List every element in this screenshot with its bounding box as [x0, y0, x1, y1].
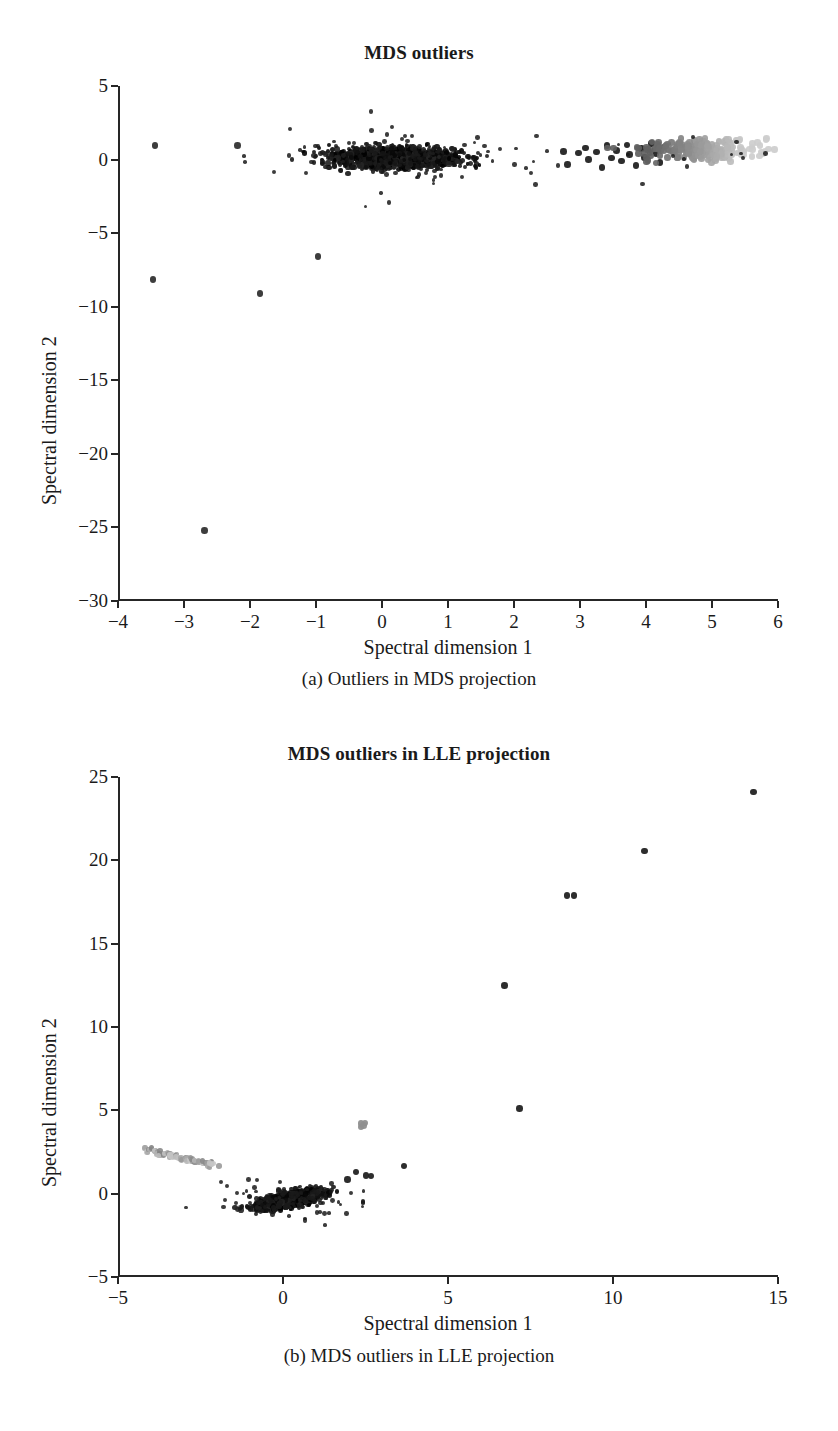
x-tick-label: 6 — [773, 611, 783, 633]
cluster-point — [238, 1205, 243, 1210]
cluster-point — [439, 173, 444, 178]
cluster-point — [349, 1191, 353, 1195]
cluster-point — [322, 1187, 326, 1191]
cluster-point — [357, 164, 362, 169]
cluster-point — [610, 145, 617, 152]
cluster-point — [475, 135, 479, 139]
cluster-point — [303, 1218, 307, 1222]
cluster-point — [387, 200, 392, 205]
x-tick — [447, 1277, 449, 1284]
x-tick — [777, 601, 779, 608]
cluster-point — [725, 136, 732, 143]
cluster-point — [379, 191, 382, 194]
cluster-point — [741, 156, 745, 160]
outlier-point — [633, 162, 640, 169]
cluster-point — [332, 140, 336, 144]
cluster-point — [443, 146, 446, 149]
outlier-point — [201, 527, 208, 534]
cluster-point — [225, 1184, 229, 1188]
cluster-point — [320, 159, 325, 164]
cluster-point — [390, 125, 394, 129]
x-tick — [381, 601, 383, 608]
y-tick — [111, 1193, 118, 1195]
cluster-point — [697, 148, 704, 155]
cluster-point — [219, 1180, 224, 1185]
cluster-point — [446, 161, 452, 167]
cluster-point — [737, 144, 744, 151]
cluster-point — [685, 143, 692, 150]
cluster-point — [318, 1210, 322, 1214]
cluster-point — [524, 166, 528, 170]
cluster-point — [290, 157, 295, 162]
cluster-point — [724, 144, 731, 151]
plot-a-points-layer — [120, 86, 778, 599]
cluster-point — [763, 136, 770, 143]
outlier-point — [344, 1176, 351, 1183]
cluster-point — [341, 153, 346, 158]
x-tick-label: 15 — [769, 1287, 788, 1309]
cluster-point — [320, 1196, 324, 1200]
outlier-point — [575, 150, 582, 157]
x-tick — [447, 601, 449, 608]
panel-b-title: MDS outliers in LLE projection — [0, 743, 838, 765]
outlier-point — [358, 1124, 365, 1131]
cluster-point — [303, 145, 307, 149]
y-tick — [111, 526, 118, 528]
x-tick — [282, 1277, 284, 1284]
cluster-point — [223, 1198, 227, 1202]
cluster-point — [685, 164, 689, 168]
x-tick-label: −3 — [174, 611, 194, 633]
outlier-point — [353, 1169, 360, 1176]
cluster-point — [364, 205, 368, 209]
outlier-point — [315, 253, 322, 260]
cluster-point — [420, 163, 425, 168]
cluster-point — [216, 1163, 222, 1169]
cluster-point — [534, 134, 538, 138]
cluster-point — [545, 149, 549, 153]
y-tick — [111, 1026, 118, 1028]
cluster-point — [305, 1188, 309, 1192]
panel-a-title: MDS outliers — [0, 42, 838, 64]
cluster-point — [771, 146, 778, 153]
x-tick-label: −4 — [108, 611, 128, 633]
plot-b-axes — [118, 777, 778, 1277]
cluster-point — [245, 1189, 249, 1193]
cluster-point — [272, 170, 276, 174]
panel-a-ylabel: Spectral dimension 2 — [38, 336, 61, 505]
cluster-point — [447, 156, 451, 160]
cluster-point — [242, 154, 246, 158]
panel-b: MDS outliers in LLE projection 252015105… — [0, 700, 838, 1431]
cluster-point — [254, 1190, 258, 1194]
x-tick-label: 2 — [509, 611, 519, 633]
y-tick — [111, 1109, 118, 1111]
cluster-point — [382, 139, 387, 144]
cluster-point — [634, 144, 641, 151]
cluster-point — [462, 143, 466, 147]
cluster-point — [479, 153, 482, 156]
cluster-point — [339, 168, 343, 172]
cluster-point — [436, 166, 440, 170]
y-tick — [111, 379, 118, 381]
cluster-point — [335, 1189, 340, 1194]
x-tick-label: 10 — [604, 1287, 623, 1309]
cluster-point — [485, 154, 489, 158]
cluster-point — [640, 182, 645, 187]
cluster-point — [405, 165, 410, 170]
plot-a-axes — [118, 86, 778, 601]
cluster-point — [757, 142, 764, 149]
y-tick — [111, 306, 118, 308]
cluster-point — [617, 143, 620, 146]
panel-b-caption: (b) MDS outliers in LLE projection — [0, 1345, 838, 1367]
cluster-point — [287, 153, 291, 157]
cluster-point — [393, 171, 398, 176]
cluster-point — [397, 153, 401, 157]
y-tick — [111, 85, 118, 87]
cluster-point — [313, 144, 317, 148]
y-tick — [111, 232, 118, 234]
cluster-point — [310, 1196, 315, 1201]
x-tick-label: 5 — [443, 1287, 453, 1309]
cluster-point — [362, 157, 366, 161]
cluster-point — [431, 152, 435, 156]
cluster-point — [274, 1197, 278, 1201]
cluster-point — [270, 1212, 274, 1216]
